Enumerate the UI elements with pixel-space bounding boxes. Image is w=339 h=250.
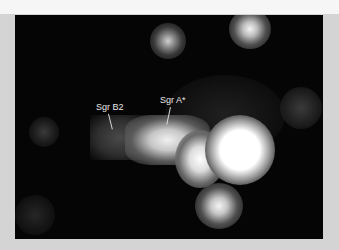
brightest-source	[205, 115, 275, 185]
faint-source-left	[29, 117, 59, 147]
source-top-right	[229, 15, 271, 49]
label-sgr-a-star: Sgr A*	[160, 95, 186, 105]
source-top-middle	[150, 23, 186, 59]
label-sgr-b2: Sgr B2	[96, 102, 124, 112]
source-bottom	[195, 183, 243, 229]
faint-source-bottom-left	[15, 195, 55, 235]
sky-map-image: Sgr B2 Sgr A*	[15, 15, 323, 239]
faint-source-right	[280, 87, 322, 129]
top-strip	[0, 0, 339, 14]
